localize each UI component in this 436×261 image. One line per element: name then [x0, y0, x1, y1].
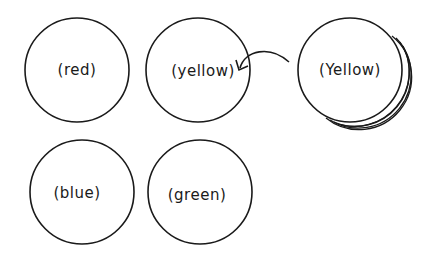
- label-yellow-target: (yellow): [171, 62, 235, 80]
- diagram-canvas: [0, 0, 436, 261]
- label-blue: (blue): [53, 184, 100, 202]
- label-red: (red): [58, 61, 97, 79]
- label-green: (green): [168, 186, 227, 204]
- arrow-icon: [236, 52, 289, 70]
- label-yellow-moving: (Yellow): [319, 61, 381, 79]
